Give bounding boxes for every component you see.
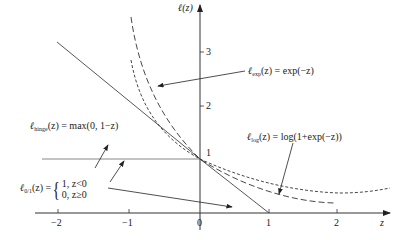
y-tick-2: 2	[206, 101, 211, 111]
x-tick-2: 2	[334, 218, 339, 228]
x-tick-neg1: −1	[122, 218, 133, 228]
x-tick-0: 0	[197, 218, 202, 228]
log-loss-curve	[131, 60, 390, 193]
x-tick-neg2: −2	[51, 218, 62, 228]
y-tick-3: 3	[206, 47, 211, 57]
y-axis-label: ℓ(z)	[178, 3, 193, 13]
zero-one-loss-label: ℓ0/1(z) ={1, z<00, z≥0	[20, 178, 87, 200]
log-arrow	[279, 143, 293, 194]
y-tick-1: 1	[206, 148, 211, 158]
hinge-arrow	[95, 145, 108, 168]
exp-arrow	[158, 71, 245, 86]
zero-one-arrow-lower	[108, 188, 232, 207]
x-tick-1: 1	[266, 218, 271, 228]
exp-loss-curve	[131, 17, 335, 203]
exp-loss-label: ℓexp(z) = exp(−z)	[248, 66, 314, 77]
zero-one-arrow-upper	[110, 161, 124, 182]
x-axis-label: z	[380, 218, 384, 228]
log-loss-label: ℓlog(z) = log(1+exp(−z))	[247, 132, 342, 143]
hinge-loss-label: ℓhinge(z) = max(0, 1−z)	[30, 121, 118, 132]
